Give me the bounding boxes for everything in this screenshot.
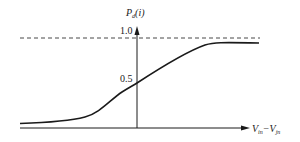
y-axis-label: Pd(i) bbox=[126, 8, 145, 19]
x-axis-label: Vin−Vjn bbox=[252, 124, 280, 135]
y-axis-arrow-icon bbox=[135, 26, 140, 35]
x-axis-arrow-icon bbox=[241, 126, 250, 131]
y-tick-0-5: 0.5 bbox=[120, 74, 133, 84]
sigmoid-chart bbox=[0, 0, 300, 142]
y-tick-1-0: 1.0 bbox=[120, 26, 133, 36]
sigmoid-curve bbox=[20, 43, 259, 124]
